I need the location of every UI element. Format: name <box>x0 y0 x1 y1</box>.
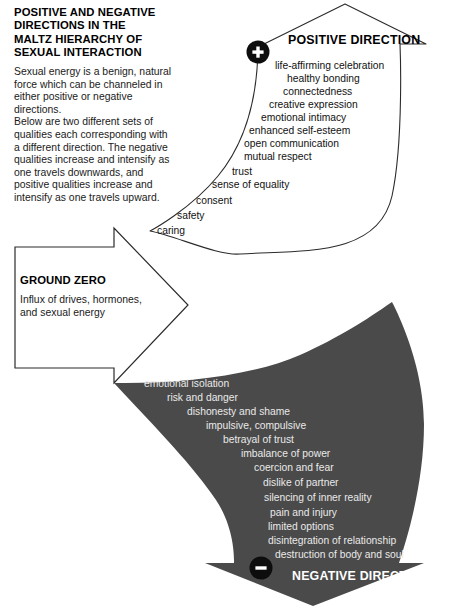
plus-badge-icon <box>247 41 270 64</box>
intro-line: Sexual energy is a benign, natural <box>14 66 186 79</box>
positive-quality-item: healthy bonding <box>287 73 360 85</box>
positive-quality-item: enhanced self-esteem <box>249 125 350 137</box>
positive-quality-item: mutual respect <box>244 151 312 163</box>
intro-line: either positive or negative <box>14 91 186 104</box>
positive-quality-item: emotional intimacy <box>261 112 346 124</box>
positive-quality-item: trust <box>232 166 252 178</box>
negative-quality-item: pain and injury <box>270 507 337 519</box>
intro-paragraph: Sexual energy is a benign, natural force… <box>14 66 186 205</box>
intro-line: a different direction. The negative <box>14 142 186 155</box>
negative-quality-item: emotional isolation <box>144 378 229 390</box>
negative-quality-item: silencing of inner reality <box>264 492 372 504</box>
ground-zero-line: Influx of drives, hormones, <box>20 294 180 307</box>
negative-quality-item: destruction of body and soul <box>275 549 404 561</box>
title-line: DIRECTIONS IN THE <box>14 19 186 32</box>
positive-quality-item: consent <box>196 195 232 207</box>
title-line: SEXUAL INTERACTION <box>14 46 186 59</box>
positive-quality-item: life-affirming celebration <box>275 60 384 72</box>
intro-line: qualities each corresponding with <box>14 129 186 142</box>
negative-quality-item: disintegration of relationship <box>268 535 396 547</box>
ground-zero-line: and sexual energy <box>20 307 180 320</box>
negative-quality-item: betrayal of trust <box>223 434 294 446</box>
intro-line: force which can be channeled in <box>14 79 186 92</box>
page-title: POSITIVE AND NEGATIVE DIRECTIONS IN THE … <box>14 6 186 60</box>
intro-line: directions. <box>14 104 186 117</box>
intro-line: intensify as one travels upward. <box>14 192 186 205</box>
positive-quality-item: creative expression <box>269 99 358 111</box>
positive-quality-item: sense of equality <box>212 179 289 191</box>
negative-quality-item: dislike of partner <box>263 477 339 489</box>
negative-quality-item: risk and danger <box>167 392 238 404</box>
intro-line: positive qualities increase and <box>14 179 186 192</box>
title-line: POSITIVE AND NEGATIVE <box>14 6 186 19</box>
positive-quality-item: caring <box>157 225 185 237</box>
intro-line: qualities increase and intensify as <box>14 154 186 167</box>
title-line: MALTZ HIERARCHY OF <box>14 33 186 46</box>
intro-line: Below are two different sets of <box>14 116 186 129</box>
negative-quality-item: imbalance of power <box>241 448 330 460</box>
positive-quality-item: open communication <box>244 138 339 150</box>
positive-direction-heading: POSITIVE DIRECTION <box>288 33 420 47</box>
negative-quality-item: dishonesty and shame <box>187 406 290 418</box>
minus-badge-icon <box>250 557 273 580</box>
negative-quality-item: coercion and fear <box>254 462 334 474</box>
negative-quality-item: limited options <box>268 521 334 533</box>
maltz-hierarchy-diagram: POSITIVE AND NEGATIVE DIRECTIONS IN THE … <box>0 0 467 612</box>
intro-line: one travels downwards, and <box>14 167 186 180</box>
ground-zero-description: Influx of drives, hormones, and sexual e… <box>20 294 180 319</box>
positive-quality-item: connectedness <box>283 86 352 98</box>
positive-quality-item: safety <box>177 210 204 222</box>
ground-zero-heading: GROUND ZERO <box>20 274 106 286</box>
negative-quality-item: impulsive, compulsive <box>206 420 306 432</box>
negative-direction-heading: NEGATIVE DIRECTION <box>292 569 430 583</box>
